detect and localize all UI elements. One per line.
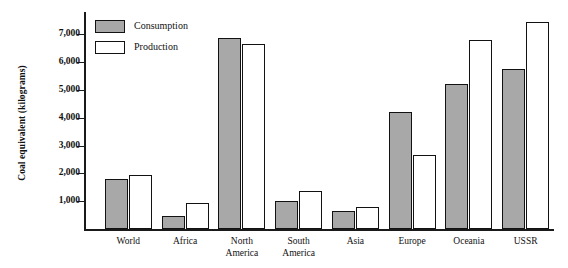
bar-consumption xyxy=(105,179,128,229)
legend-item-production: Production xyxy=(95,39,225,55)
bar-consumption xyxy=(445,84,468,229)
bar-production xyxy=(526,22,549,229)
bar-consumption xyxy=(389,112,412,229)
legend-item-consumption: Consumption xyxy=(95,18,225,34)
y-axis-title: Coal equivalent (kilograms) xyxy=(17,43,27,203)
y-tick-label: 4,000 xyxy=(59,113,80,123)
consumption-swatch-icon xyxy=(95,20,125,33)
bar-production xyxy=(186,203,209,229)
bar-group xyxy=(275,12,322,229)
y-tick-label: 7,000 xyxy=(59,30,80,40)
bar-consumption xyxy=(332,211,355,229)
bar-production xyxy=(356,207,379,229)
bar-consumption xyxy=(502,69,525,229)
chart-legend: Consumption Production xyxy=(95,18,225,60)
bar-group xyxy=(445,12,492,229)
bar-consumption xyxy=(218,38,241,229)
bar-consumption xyxy=(162,216,185,229)
bar-production xyxy=(299,191,322,229)
bar-chart: Coal equivalent (kilograms) 1,0002,0003,… xyxy=(0,0,568,268)
legend-label-production: Production xyxy=(134,42,178,52)
y-axis-line xyxy=(84,12,86,231)
bar-production xyxy=(413,155,436,229)
x-category-label: USSR xyxy=(489,236,562,248)
production-swatch-icon xyxy=(95,41,125,54)
bar-group xyxy=(389,12,436,229)
bar-group xyxy=(332,12,379,229)
bar-group xyxy=(218,12,265,229)
bar-production xyxy=(242,44,265,229)
y-tick-label: 3,000 xyxy=(59,141,80,151)
bar-consumption xyxy=(275,201,298,229)
bar-production xyxy=(469,40,492,229)
y-tick-label: 5,000 xyxy=(59,85,80,95)
bar-group xyxy=(502,12,549,229)
x-axis-line xyxy=(84,229,554,231)
y-tick-label: 2,000 xyxy=(59,169,80,179)
y-tick-label: 1,000 xyxy=(59,196,80,206)
legend-label-consumption: Consumption xyxy=(134,21,188,31)
bar-production xyxy=(129,175,152,229)
y-tick-label: 6,000 xyxy=(59,57,80,67)
